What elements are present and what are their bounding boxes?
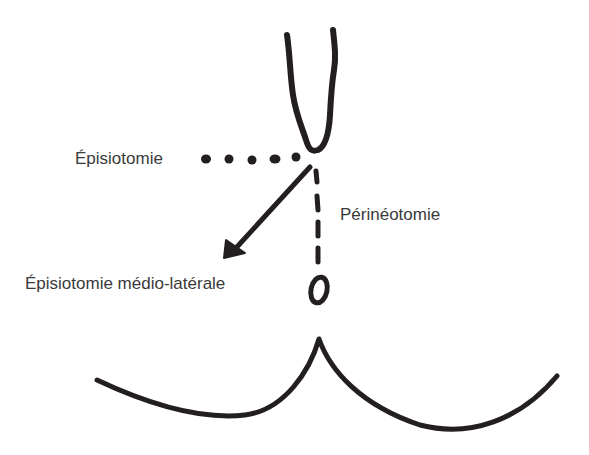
- buttocks-outline: [97, 339, 557, 429]
- vaginal-opening-outline: [287, 30, 335, 151]
- diagram-drawing: [0, 0, 589, 455]
- anus-oval: [308, 276, 329, 305]
- mediolateral-arrow-shaft: [236, 167, 310, 248]
- label-episiotomie-mediolaterale: Épisiotomie médio-latérale: [25, 275, 225, 292]
- perineotomie-dashed-line: [316, 171, 318, 262]
- episiotomie-dotted-line: [201, 153, 301, 165]
- label-episiotomie: Épisiotomie: [75, 150, 163, 167]
- perineal-incision-diagram: Épisiotomie Périnéotomie Épisiotomie méd…: [0, 0, 589, 455]
- label-perineotomie: Périnéotomie: [340, 206, 440, 223]
